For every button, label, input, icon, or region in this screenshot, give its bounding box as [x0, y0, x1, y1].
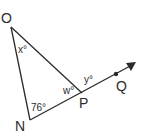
arrowhead-icon — [126, 62, 136, 71]
segment-on — [11, 27, 30, 120]
label-q: Q — [116, 78, 127, 94]
segment-op — [11, 27, 82, 93]
angle-w-label: w° — [62, 85, 74, 96]
label-n: N — [15, 118, 25, 134]
angle-76-label: 76° — [31, 102, 46, 113]
triangle-diagram: O N P Q x° 76° w° y° — [0, 0, 147, 138]
label-o: O — [1, 10, 12, 26]
angle-y-label: y° — [84, 74, 93, 85]
label-p: P — [79, 95, 88, 111]
point-q-dot — [114, 72, 118, 76]
angle-x-label: x° — [18, 44, 27, 55]
